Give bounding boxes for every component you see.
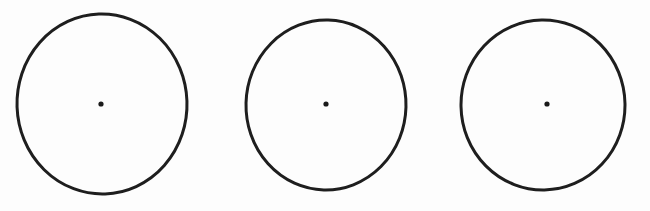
figure-canvas	[0, 0, 650, 211]
circle-2-center-dot	[323, 101, 328, 106]
circle-1-center-dot	[98, 101, 103, 106]
circle-3-center-dot	[544, 101, 549, 106]
figure-svg	[0, 0, 650, 211]
